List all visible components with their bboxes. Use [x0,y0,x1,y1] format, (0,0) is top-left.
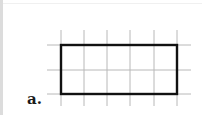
figure-label: a. [27,92,42,107]
